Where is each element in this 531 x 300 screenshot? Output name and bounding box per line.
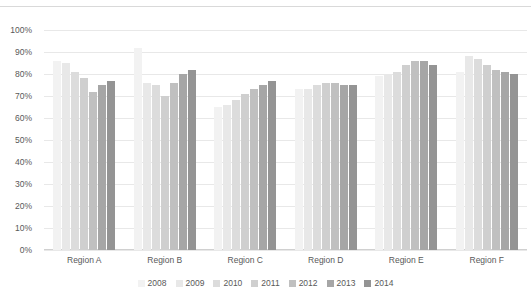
bar	[349, 85, 357, 250]
bar	[429, 65, 437, 250]
x-axis-label: Region A	[44, 255, 125, 265]
legend-swatch-icon	[251, 280, 258, 287]
bar	[98, 85, 106, 250]
bar	[411, 61, 419, 250]
legend-item[interactable]: 2014	[364, 278, 393, 288]
bar-group	[286, 30, 367, 250]
bar	[295, 89, 303, 250]
legend-label: 2014	[374, 278, 393, 288]
bar	[179, 74, 187, 250]
bar	[384, 74, 392, 250]
legend-item[interactable]: 2008	[138, 278, 167, 288]
legend-swatch-icon	[289, 280, 296, 287]
bar	[322, 83, 330, 250]
bar	[143, 83, 151, 250]
bar	[223, 105, 231, 250]
bar-group	[366, 30, 447, 250]
bar	[250, 89, 258, 250]
bar	[465, 56, 473, 250]
bar-groups	[44, 30, 527, 250]
bar	[80, 78, 88, 250]
x-axis-label: Region B	[125, 255, 206, 265]
bar	[331, 83, 339, 250]
bar	[89, 92, 97, 250]
bar	[492, 70, 500, 250]
gridline	[44, 250, 527, 251]
bar	[134, 48, 142, 250]
legend-label: 2011	[261, 278, 279, 288]
y-axis-tick-label: 0%	[0, 246, 32, 255]
legend-item[interactable]: 2012	[289, 278, 318, 288]
bar-chart: 0%10%20%30%40%50%60%70%80%90%100% Region…	[0, 0, 531, 300]
bar	[232, 100, 240, 250]
y-axis-tick-label: 10%	[0, 224, 32, 233]
bar	[259, 85, 267, 250]
bar	[340, 85, 348, 250]
y-axis-tick-label: 40%	[0, 158, 32, 167]
legend-swatch-icon	[364, 280, 371, 287]
legend-item[interactable]: 2011	[251, 278, 279, 288]
legend-item[interactable]: 2010	[213, 278, 242, 288]
bar	[510, 74, 518, 250]
bar	[501, 72, 509, 250]
bar-group	[44, 30, 125, 250]
legend-label: 2010	[223, 278, 242, 288]
bar	[474, 59, 482, 250]
y-axis-tick-label: 30%	[0, 180, 32, 189]
legend-label: 2012	[299, 278, 318, 288]
x-axis-label: Region E	[366, 255, 447, 265]
bar	[456, 72, 464, 250]
bar	[268, 81, 276, 250]
bar-group	[125, 30, 206, 250]
legend-swatch-icon	[138, 280, 145, 287]
y-axis-tick-label: 80%	[0, 70, 32, 79]
legend-item[interactable]: 2009	[176, 278, 205, 288]
y-axis-tick-label: 70%	[0, 92, 32, 101]
legend-swatch-icon	[327, 280, 334, 287]
bar	[170, 83, 178, 250]
title-divider	[0, 6, 531, 7]
bar	[393, 72, 401, 250]
bar	[107, 81, 115, 250]
legend-item[interactable]: 2013	[327, 278, 356, 288]
bar	[313, 85, 321, 250]
legend-swatch-icon	[176, 280, 183, 287]
y-axis-tick-label: 90%	[0, 48, 32, 57]
y-axis-tick-label: 50%	[0, 136, 32, 145]
x-axis-label: Region D	[286, 255, 367, 265]
bar	[375, 76, 383, 250]
bar	[53, 61, 61, 250]
legend-label: 2013	[337, 278, 356, 288]
x-axis-label: Region C	[205, 255, 286, 265]
y-axis-tick-label: 20%	[0, 202, 32, 211]
bar-group	[205, 30, 286, 250]
bar	[71, 72, 79, 250]
legend-swatch-icon	[213, 280, 220, 287]
bar	[304, 89, 312, 250]
bar	[214, 107, 222, 250]
bar-group	[447, 30, 528, 250]
bar	[152, 85, 160, 250]
bar	[188, 70, 196, 250]
y-axis-tick-label: 60%	[0, 114, 32, 123]
bar	[483, 65, 491, 250]
bar	[420, 61, 428, 250]
bar	[62, 63, 70, 250]
legend-label: 2009	[186, 278, 205, 288]
x-axis-label: Region F	[447, 255, 528, 265]
legend-label: 2008	[148, 278, 167, 288]
x-axis-labels: Region ARegion BRegion CRegion DRegion E…	[44, 255, 527, 265]
bar	[161, 96, 169, 250]
bar	[241, 94, 249, 250]
y-axis-tick-label: 100%	[0, 26, 32, 35]
chart-legend: 2008200920102011201220132014	[0, 278, 531, 288]
bar	[402, 65, 410, 250]
